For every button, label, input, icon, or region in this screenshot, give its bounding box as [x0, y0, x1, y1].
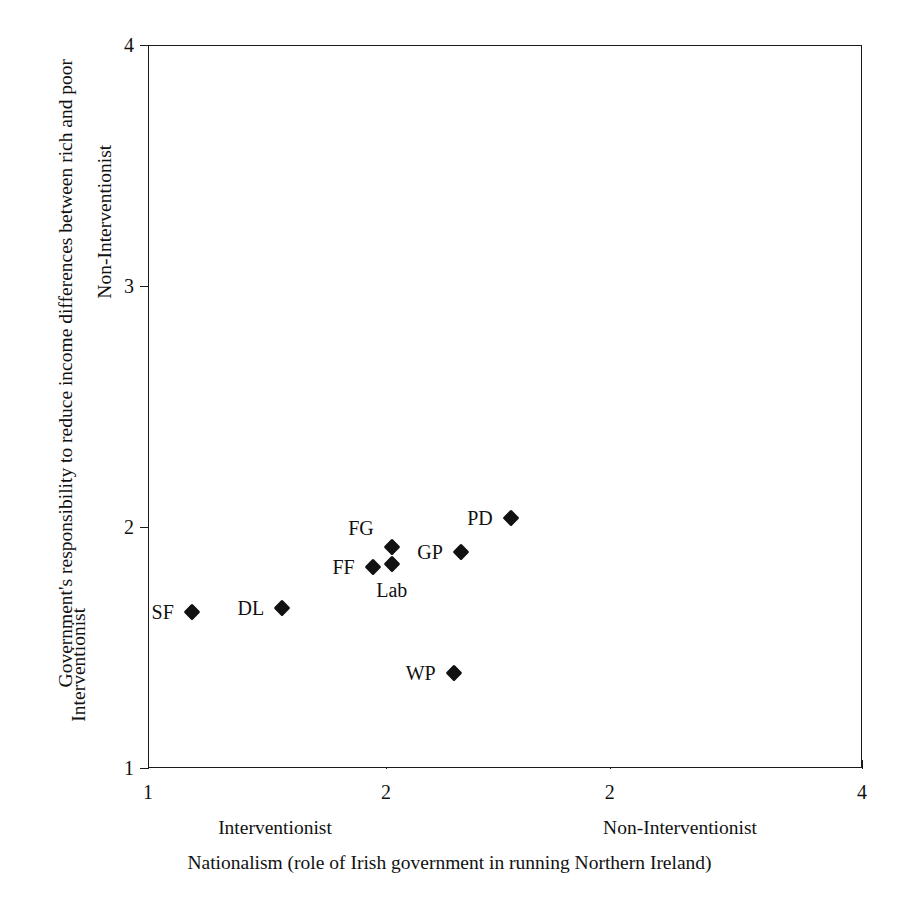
- plot-area: SFDLFFFGLabGPPDWP: [148, 45, 862, 768]
- x-axis-high-anchor-label: Non-Interventionist: [520, 818, 840, 838]
- x-axis-low-anchor-label: Interventionist: [145, 818, 405, 838]
- data-point-label: DL: [238, 598, 265, 618]
- data-point-marker: [364, 558, 381, 575]
- y-axis-tick-label: 2: [106, 517, 134, 537]
- y-axis-high-anchor-label: Non-Interventionist: [95, 112, 115, 332]
- x-axis-tick-mark: [862, 760, 863, 769]
- data-point-marker: [274, 599, 291, 616]
- data-point-marker: [452, 544, 469, 561]
- data-point-label: PD: [467, 508, 493, 528]
- data-point-label: SF: [152, 602, 174, 622]
- y-axis-low-anchor-label: Interventionist: [69, 574, 89, 756]
- data-point-label: WP: [406, 663, 436, 683]
- x-axis-tick-label: 4: [842, 782, 882, 802]
- x-axis-tick-label: 2: [590, 782, 630, 802]
- scatter-plot-figure: Government's responsibility to reduce in…: [0, 0, 899, 902]
- x-axis-tick-label: 1: [128, 782, 168, 802]
- data-point-label: Lab: [362, 580, 422, 600]
- y-axis-tick-label: 4: [106, 35, 134, 55]
- data-point-marker: [383, 556, 400, 573]
- y-axis-tick-label: 3: [106, 276, 134, 296]
- y-axis-tick-label: 1: [106, 758, 134, 778]
- data-point-marker: [183, 604, 200, 621]
- data-point-label: FG: [348, 518, 374, 538]
- x-axis-tick-label: 2: [366, 782, 406, 802]
- data-point-marker: [502, 510, 519, 527]
- data-point-label: FF: [332, 557, 354, 577]
- data-point-marker: [445, 664, 462, 681]
- data-point-marker: [383, 539, 400, 556]
- x-axis-title: Nationalism (role of Irish government in…: [0, 853, 899, 873]
- data-point-label: GP: [417, 542, 443, 562]
